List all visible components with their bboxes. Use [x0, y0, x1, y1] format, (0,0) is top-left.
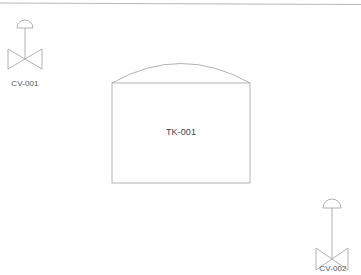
pid-canvas — [0, 0, 361, 275]
tank-tk-001[interactable] — [112, 64, 250, 184]
tank-dome-roof — [112, 64, 250, 84]
diaphragm-actuator-icon — [17, 20, 33, 28]
top-frame-line — [0, 3, 361, 5]
control-valve-cv-002[interactable] — [316, 199, 348, 270]
diaphragm-actuator-icon — [323, 199, 341, 208]
cv-001-label: CV-001 — [11, 79, 38, 88]
cv-002-label: CV-002 — [319, 264, 346, 273]
control-valve-cv-001[interactable] — [8, 20, 42, 69]
tk-001-label: TK-001 — [166, 127, 196, 137]
